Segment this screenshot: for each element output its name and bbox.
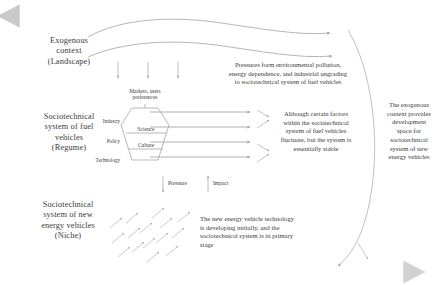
- regime-diverging-arrows: [257, 110, 269, 162]
- flow-label-impact: Impact: [213, 180, 245, 186]
- hexagon-label-culture: Culture: [124, 143, 168, 149]
- landscape-trend-lines: [88, 19, 332, 57]
- hexagon-label-technology: Technology: [78, 158, 120, 164]
- hexagon-top-label-markets: Markets, users preferences: [113, 88, 177, 101]
- niche-innovation-arrows: [110, 208, 190, 262]
- note-exogenous-space: The exogenous context provides developme…: [378, 101, 440, 162]
- level-label-landscape: Exogenous context (Landscape): [22, 36, 116, 67]
- regime-continuity-arrows: [150, 112, 250, 157]
- diagram-canvas: Exogenous context (Landscape) Sociotechn…: [0, 0, 445, 285]
- niche-outcome-arrow: [358, 243, 368, 259]
- note-regime-stability: Although certain factors within the soci…: [272, 110, 360, 154]
- note-landscape-pressure: Pressures form environmental pollution, …: [218, 61, 358, 87]
- flow-label-pressure: Pressure: [168, 180, 204, 186]
- hexagon-label-industry: Industry: [86, 119, 120, 125]
- hexagon-label-science: Science: [124, 127, 168, 133]
- note-niche-development: The new energy vehicle technology is dev…: [200, 215, 332, 250]
- level-label-niche: Sociotechnical system of new energy vehi…: [18, 200, 118, 241]
- hexagon-label-policy: Policy: [86, 139, 120, 145]
- landscape-pressure-arrows: [118, 62, 178, 78]
